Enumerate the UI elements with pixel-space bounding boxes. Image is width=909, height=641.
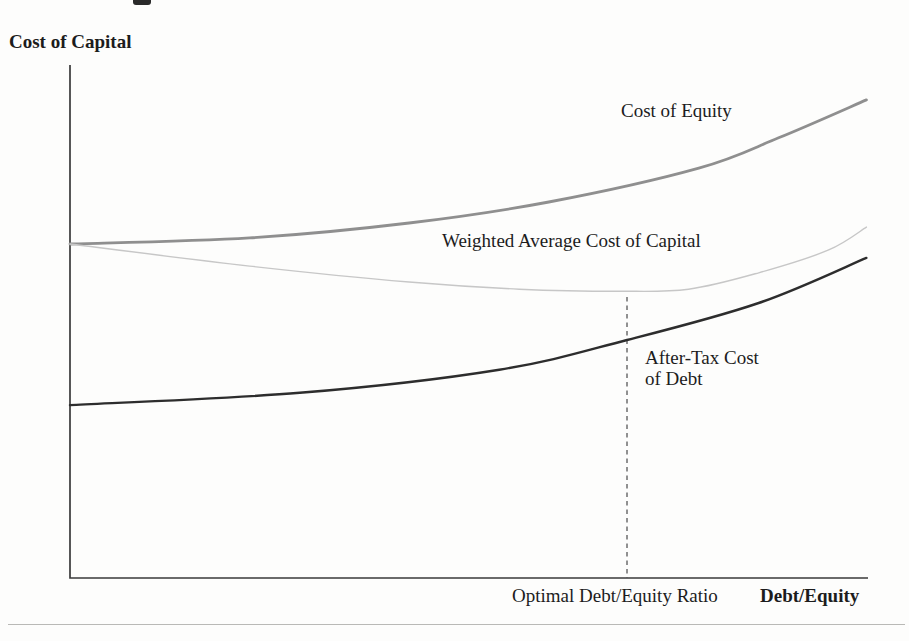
x-axis-title: Debt/Equity <box>760 585 859 606</box>
axes-group <box>70 65 868 578</box>
axis-lines <box>70 65 868 578</box>
figure-page: Cost of Capital Cost of Equity Weighted … <box>0 0 909 641</box>
optimal-ratio-annotation: Optimal Debt/Equity Ratio <box>512 585 718 606</box>
y-axis-title: Cost of Capital <box>9 31 131 52</box>
cost-of-equity-label: Cost of Equity <box>621 100 732 121</box>
chart-canvas <box>0 0 909 641</box>
after-tax-cost-of-debt-label: After-Tax Cost of Debt <box>645 347 767 389</box>
wacc-label: Weighted Average Cost of Capital <box>442 230 701 251</box>
curve-cost-of-equity <box>70 100 866 244</box>
page-divider <box>8 624 905 625</box>
